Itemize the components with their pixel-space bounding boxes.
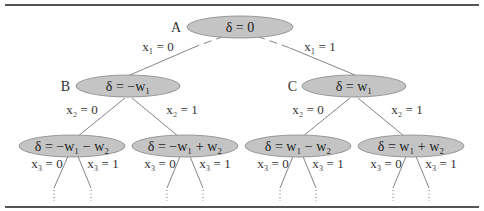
node-a: δ = 0 A — [171, 16, 293, 38]
edge-a-c — [245, 32, 355, 75]
node-b: δ = −w₁ B — [61, 75, 180, 97]
edge-label-l2-2-x3-1: x₃ = 1 — [312, 156, 343, 171]
node-cc: δ = w₁ + w₂ — [358, 135, 464, 157]
edge-label-x1-0: x₁ = 0 — [142, 39, 173, 54]
edge-label-l2-3-x3-1: x₃ = 1 — [425, 156, 456, 171]
edge-label-l2-2-x3-0: x₃ = 0 — [257, 156, 288, 171]
continuation-ellipsis — [54, 190, 429, 201]
edge-label-l2-1-x3-0: x₃ = 0 — [144, 156, 175, 171]
node-bc: δ = −w₁ + w₂ — [132, 135, 238, 157]
node-bb: δ = −w₁ − w₂ — [19, 135, 125, 157]
node-c: δ = w₁ C — [288, 75, 406, 97]
node-bc-value: δ = −w₁ + w₂ — [148, 139, 222, 154]
edge-label-b-x2-0: x₂ = 0 — [66, 102, 97, 117]
edge-label-c-x2-1: x₂ = 1 — [391, 102, 422, 117]
edge-label-l2-0-x3-1: x₃ = 1 — [87, 156, 118, 171]
node-a-label: A — [171, 20, 182, 35]
node-cb: δ = w₁ − w₂ — [245, 135, 351, 157]
edge-label-l2-1-x3-1: x₃ = 1 — [199, 156, 230, 171]
edge-label-c-x2-0: x₂ = 0 — [292, 102, 323, 117]
decision-tree-diagram: x₁ = 0 x₁ = 1 x₂ = 0 x₂ = 1 x₂ = 0 x₂ = … — [0, 0, 484, 211]
node-bb-value: δ = −w₁ − w₂ — [35, 139, 109, 154]
edge-label-l2-0-x3-0: x₃ = 0 — [31, 156, 62, 171]
edge-label-x1-1: x₁ = 1 — [304, 39, 335, 54]
edge-label-b-x2-1: x₂ = 1 — [166, 102, 197, 117]
node-a-value: δ = 0 — [226, 20, 255, 35]
node-c-label: C — [288, 79, 297, 94]
node-c-value: δ = w₁ — [336, 79, 372, 94]
node-b-value: δ = −w₁ — [106, 79, 150, 94]
node-cc-value: δ = w₁ + w₂ — [378, 139, 444, 154]
node-b-label: B — [61, 79, 70, 94]
node-cb-value: δ = w₁ − w₂ — [265, 139, 331, 154]
edge-label-l2-3-x3-0: x₃ = 0 — [370, 156, 401, 171]
